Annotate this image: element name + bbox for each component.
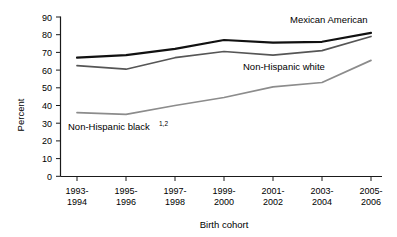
y-axis-ticks	[56, 17, 61, 176]
series-annotation-non-hispanic-white: Non-Hispanic white	[243, 61, 325, 72]
x-axis-title: Birth cohort	[200, 219, 249, 230]
line-chart: 90 80 70 60 50 40 30 20 10 0 1993- 1994 …	[0, 0, 397, 237]
series-lines	[77, 33, 371, 114]
x-axis-tick-labels: 1993- 1994 1995- 1996 1997- 1998 1999- 2…	[65, 186, 382, 207]
x-tick-label-bottom: 2000	[214, 197, 234, 207]
x-tick-label-bottom: 2004	[312, 197, 332, 207]
y-tick-label: 50	[42, 83, 52, 93]
y-axis-tick-labels: 90 80 70 60 50 40 30 20 10 0	[42, 13, 52, 182]
x-tick-label-bottom: 1998	[165, 197, 185, 207]
x-tick-label-top: 2001-	[261, 186, 284, 196]
x-tick-label-top: 1993-	[65, 186, 88, 196]
x-tick-label-bottom: 1996	[116, 197, 136, 207]
x-tick-label-bottom: 2006	[361, 197, 381, 207]
y-axis-title: Percent	[15, 98, 26, 131]
series-annotation-non-hispanic-black-footnote: 1,2	[159, 120, 168, 127]
y-tick-label: 10	[42, 154, 52, 164]
y-tick-label: 90	[42, 13, 52, 23]
x-tick-label-top: 1999-	[212, 186, 235, 196]
x-tick-label-bottom: 1994	[67, 197, 87, 207]
y-tick-label: 70	[42, 48, 52, 58]
y-tick-label: 20	[42, 136, 52, 146]
y-tick-label: 40	[42, 101, 52, 111]
x-tick-label-top: 2005-	[359, 186, 382, 196]
series-annotation-non-hispanic-black-group: Non-Hispanic black 1,2	[68, 120, 168, 132]
chart-figure: 90 80 70 60 50 40 30 20 10 0 1993- 1994 …	[0, 0, 397, 237]
x-tick-label-bottom: 2002	[263, 197, 283, 207]
y-tick-label: 30	[42, 119, 52, 129]
series-annotation-non-hispanic-black: Non-Hispanic black	[68, 121, 150, 132]
y-tick-label: 80	[42, 30, 52, 40]
x-tick-label-top: 2003-	[310, 186, 333, 196]
series-annotation-mexican-american: Mexican American	[290, 14, 368, 25]
x-tick-label-top: 1997-	[163, 186, 186, 196]
series-line-mexican-american	[77, 33, 371, 58]
y-tick-label: 60	[42, 66, 52, 76]
x-axis-ticks	[77, 177, 371, 182]
x-tick-label-top: 1995-	[114, 186, 137, 196]
y-tick-label: 0	[47, 172, 52, 182]
